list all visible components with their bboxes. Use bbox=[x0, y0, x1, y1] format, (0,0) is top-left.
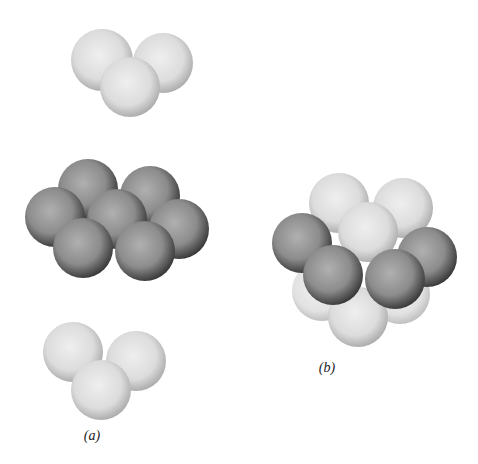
sphere-packing-diagram: (a) (b) bbox=[0, 0, 478, 464]
panel-a-middle-layer bbox=[25, 159, 209, 281]
sphere-dark bbox=[53, 218, 113, 278]
sphere-dark bbox=[115, 221, 175, 281]
sphere-dark bbox=[365, 249, 425, 309]
sphere-light bbox=[71, 360, 131, 420]
panel-a-label: (a) bbox=[84, 428, 101, 444]
sphere-dark bbox=[303, 245, 363, 305]
panel-a-bottom-layer bbox=[43, 322, 166, 420]
panel-b: (b) bbox=[272, 173, 457, 376]
sphere-light bbox=[100, 57, 160, 117]
panel-a-top-layer bbox=[71, 29, 193, 117]
panel-a: (a) bbox=[25, 29, 209, 444]
panel-b-label: (b) bbox=[319, 360, 336, 376]
